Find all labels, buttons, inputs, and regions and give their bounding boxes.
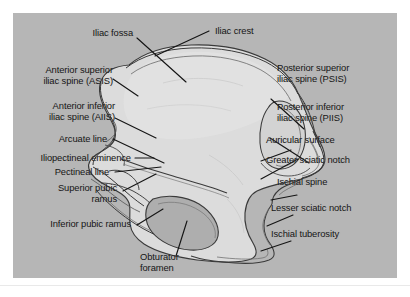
label-pectineal-line-line1: Pectineal line [15,167,109,178]
label-iliac-fossa-line1: Iliac fossa [15,28,133,39]
label-aiis-line2: iliac spine (AIIS) [15,112,115,123]
hip-bone-illustration [13,13,397,278]
label-obturator-foramen-line2: foramen [140,263,179,274]
label-superior-pubic-ramus-line2: ramus [15,194,117,205]
label-inferior-pubic-ramus: Inferior pubic ramus [13,219,131,230]
leader-lesser-sciatic-notch [267,215,293,226]
label-obturator-foramen: Obturator foramen [140,252,179,273]
label-psis-line2: iliac spine (PSIS) [277,74,349,85]
label-lesser-sciatic-notch-line1: Lesser sciatic notch [271,203,351,214]
label-superior-pubic-ramus: Superior pubic ramus [15,183,117,204]
figure-root: Iliac fossa Anterior superior iliac spin… [0,0,410,297]
label-auricular-surface-line1: Auricular surface [266,135,335,146]
page-rule [0,285,410,286]
leader-ischial-tuberosity [261,241,291,251]
label-piis: Posterior inferior iliac spine (PIIS) [277,102,344,123]
label-greater-sciatic-notch-line1: Greater sciatic notch [266,155,350,166]
label-asis-line2: iliac spine (ASIS) [15,76,113,87]
label-iliopectineal-eminence: Iliopectineal eminence [13,153,131,164]
label-superior-pubic-ramus-line1: Superior pubic [15,183,117,194]
label-arcuate-line-line1: Arcuate line [15,134,107,145]
page-footer-ghost-text [18,288,228,296]
label-piis-line2: iliac spine (PIIS) [277,113,344,124]
label-greater-sciatic-notch: Greater sciatic notch [266,155,350,166]
label-asis-line1: Anterior superior [15,65,113,76]
label-arcuate-line: Arcuate line [15,134,107,145]
label-lesser-sciatic-notch: Lesser sciatic notch [271,203,351,214]
label-iliac-crest: Iliac crest [215,26,254,37]
label-aiis: Anterior inferior iliac spine (AIIS) [15,101,115,122]
label-iliopectineal-eminence-line1: Iliopectineal eminence [13,153,131,164]
label-auricular-surface: Auricular surface [266,135,335,146]
label-iliac-fossa: Iliac fossa [15,28,133,39]
label-iliac-crest-line1: Iliac crest [215,26,254,37]
label-obturator-foramen-line1: Obturator [140,252,179,263]
label-psis-line1: Posterior superior [277,63,349,74]
label-inferior-pubic-ramus-line1: Inferior pubic ramus [13,219,131,230]
label-psis: Posterior superior iliac spine (PSIS) [277,63,349,84]
label-aiis-line1: Anterior inferior [15,101,115,112]
label-ischial-spine: Ischial spine [277,177,327,188]
label-asis: Anterior superior iliac spine (ASIS) [15,65,113,86]
label-piis-line1: Posterior inferior [277,102,344,113]
leader-ischial-spine [271,195,297,200]
label-ischial-spine-line1: Ischial spine [277,177,327,188]
label-pectineal-line: Pectineal line [15,167,109,178]
label-ischial-tuberosity-line1: Ischial tuberosity [271,229,339,240]
label-ischial-tuberosity: Ischial tuberosity [271,229,339,240]
diagram-panel: Iliac fossa Anterior superior iliac spin… [13,13,397,278]
